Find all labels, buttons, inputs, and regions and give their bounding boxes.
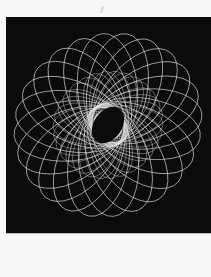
spirograph-artwork [6, 17, 211, 233]
top-mark [100, 6, 104, 13]
spiro-loop [12, 91, 138, 204]
image-frame [6, 17, 211, 233]
spiro-loop [78, 45, 204, 158]
